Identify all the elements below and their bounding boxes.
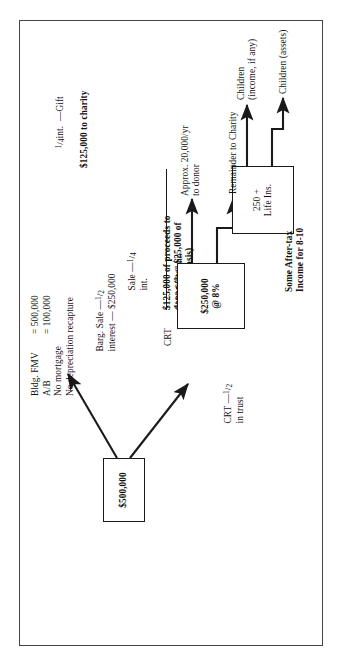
diagram-canvas: $500,000 Bldg. FMV = 500,000 A/B = 100,0… (20, 20, 324, 646)
life-insurance-label: Life Ins. (263, 184, 274, 216)
bargain-branch-fraction: 1/2 (92, 290, 106, 300)
gift-line-1: 1/4int. —Gift (42, 18, 79, 168)
fact-row-fmv: Bldg. FMV = 500,000 (30, 246, 42, 396)
principal-amount-label: $500,000 (118, 472, 129, 508)
children-income-line-1: Children (236, 0, 247, 100)
donor-income-line-2: to donor (191, 46, 202, 196)
children-income-label: Children (income, if any) (236, 0, 258, 100)
arrow-crt-to-remainder (217, 199, 233, 263)
crt-branch-fraction: 1/2 (220, 384, 234, 394)
children-income-line-2: (income, if any) (247, 0, 258, 100)
gift-detail-block: 1/4int. —Gift $125,000 to charity (42, 18, 90, 168)
gift-line1-post: int. —Gift (55, 96, 65, 138)
donor-income-flow-label: Approx. 20,000/yr to donor (180, 46, 202, 196)
fact-value-ab: = 100,000 (41, 295, 52, 334)
gift-line1-fraction: 1/4 (52, 138, 66, 148)
after-tax-line-1: Some After-tax (284, 142, 295, 292)
sale-line-1: Sale —1/4 int. (114, 158, 162, 310)
fact-note-recapture: No depreciation recapture (64, 297, 75, 396)
gift-line-2: $125,000 to charity (78, 18, 89, 168)
crt-box-rate: @ 8% (211, 283, 222, 308)
fact-row-ab: A/B = 100,000 (41, 246, 53, 396)
after-tax-line-2: Income for 8-10 (295, 142, 306, 292)
crt-branch-label-post: in trust (235, 397, 245, 424)
property-facts-block: Bldg. FMV = 500,000 A/B = 100,000 No mor… (30, 246, 76, 396)
diagram-rotation-wrapper: $500,000 Bldg. FMV = 500,000 A/B = 100,0… (0, 0, 343, 666)
crt-box-amount: $250,000 (199, 278, 210, 314)
donor-income-line-1: Approx. 20,000/yr (180, 46, 191, 196)
arrow-lifeins-to-children-assets (272, 98, 283, 166)
fact-note-recapture-row: No depreciation recapture (64, 246, 76, 396)
fact-term-ab: A/B (41, 380, 52, 396)
fact-note-mortgage-row: No mortgage (53, 246, 65, 396)
after-tax-income-label: Some After-tax Income for 8-10 (284, 142, 306, 292)
sale-line1-fraction: 1/4 (124, 252, 138, 262)
crt-branch-label: CRT —1/2 in trust (210, 384, 258, 438)
fact-note-mortgage: No mortgage (53, 346, 64, 396)
sale-line1-pre: Sale — (127, 262, 137, 290)
sale-line1-post: int. (139, 278, 149, 291)
fact-value-fmv: = 500,000 (30, 295, 41, 334)
crt-box-caption: CRT (163, 328, 174, 346)
children-assets-label: Children (assets) (278, 30, 289, 94)
sale-total-rule (166, 169, 167, 310)
remainder-to-charity-label: Remainder to Charity (228, 111, 239, 194)
arrow-to-crt (130, 384, 188, 458)
crt-box: $250,000 @ 8% (177, 263, 245, 329)
fact-term-fmv: Bldg. FMV (30, 352, 41, 396)
crt-branch-label-pre: CRT — (223, 394, 233, 423)
bargain-branch-label-pre: Barg. Sale — (95, 300, 105, 351)
principal-amount-box: $500,000 (103, 458, 145, 522)
life-insurance-amount: 250 + (251, 189, 262, 211)
